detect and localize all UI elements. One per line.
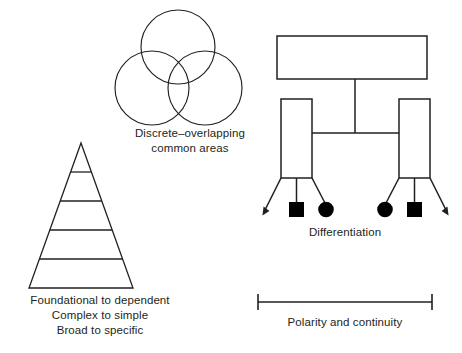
polarity-caption: Polarity and continuity — [245, 315, 445, 330]
pyramid-diagram — [29, 143, 133, 288]
differentiation-right-box — [399, 99, 430, 178]
differentiation-diagram — [262, 36, 448, 215]
differentiation-left-box — [281, 99, 312, 178]
left-circle-node — [318, 202, 334, 218]
left-square-node — [289, 202, 304, 217]
pyramid-outline — [29, 143, 133, 288]
right-circle-node — [377, 202, 393, 218]
venn-top-circle — [141, 10, 215, 84]
right-branch-to-circle — [386, 178, 399, 203]
pyramid-caption: Foundational to dependent Complex to sim… — [0, 293, 200, 338]
venn-right-circle — [168, 51, 242, 125]
venn-caption: Discrete–overlapping common areas — [110, 126, 270, 156]
differentiation-top-box — [277, 36, 427, 79]
venn-diagram — [115, 10, 242, 125]
right-branch-arrow-line — [430, 178, 446, 210]
right-square-node — [407, 202, 422, 217]
left-branch-arrow-line — [265, 178, 281, 210]
differentiation-nodes — [289, 202, 422, 218]
left-branch-to-circle — [312, 178, 325, 203]
polarity-diagram — [258, 294, 432, 310]
diagram-figure: Discrete–overlapping common areas Founda… — [0, 0, 462, 353]
differentiation-caption: Differentiation — [280, 225, 410, 240]
